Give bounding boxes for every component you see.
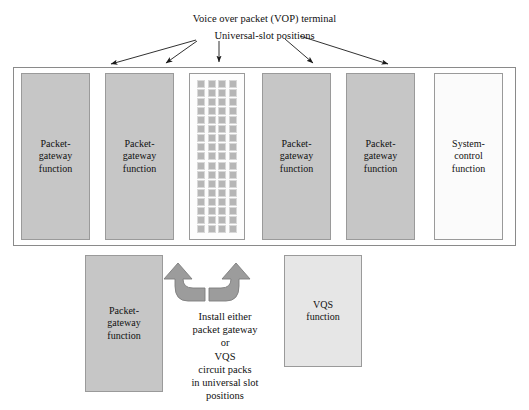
slot-packet-gateway-1[interactable]: Packet- gateway function bbox=[21, 73, 90, 240]
universal-slot-cell[interactable] bbox=[197, 189, 205, 197]
pointer-arrow-2 bbox=[166, 41, 197, 63]
universal-slot-cell[interactable] bbox=[218, 198, 226, 206]
universal-slot-cell[interactable] bbox=[218, 80, 226, 88]
universal-slot-cell[interactable] bbox=[197, 116, 205, 124]
universal-slot-cell[interactable] bbox=[208, 207, 216, 215]
universal-slot-cell[interactable] bbox=[229, 198, 237, 206]
universal-slot-position-bay[interactable] bbox=[189, 73, 245, 240]
universal-slot-cell[interactable] bbox=[229, 162, 237, 170]
universal-slot-cell[interactable] bbox=[229, 98, 237, 106]
universal-slot-cell[interactable] bbox=[197, 125, 205, 133]
vqs-circuit-pack[interactable]: VQS function bbox=[284, 255, 362, 367]
universal-slot-cell[interactable] bbox=[229, 80, 237, 88]
universal-slot-cell[interactable] bbox=[197, 225, 205, 233]
universal-slot-cell[interactable] bbox=[218, 125, 226, 133]
universal-slot-grid bbox=[190, 74, 244, 239]
universal-slot-cell[interactable] bbox=[197, 134, 205, 142]
universal-slot-cell[interactable] bbox=[197, 216, 205, 224]
universal-slot-cell[interactable] bbox=[218, 171, 226, 179]
slot-label: Packet- gateway function bbox=[280, 138, 313, 176]
universal-slot-cell[interactable] bbox=[218, 189, 226, 197]
universal-slot-cell[interactable] bbox=[218, 143, 226, 151]
slot-label: Packet- gateway function bbox=[39, 138, 72, 176]
install-instruction-text: Install either packet gateway or VQS cir… bbox=[168, 310, 282, 402]
universal-slot-positions-label: Universal-slot positions bbox=[0, 29, 529, 42]
universal-slot-cell[interactable] bbox=[197, 89, 205, 97]
slot-label: Packet- gateway function bbox=[364, 138, 397, 176]
instruction-line-5: circuit packs bbox=[168, 363, 282, 376]
universal-slot-cell[interactable] bbox=[197, 80, 205, 88]
universal-slot-cell[interactable] bbox=[197, 207, 205, 215]
slot-packet-gateway-3[interactable]: Packet- gateway function bbox=[262, 73, 331, 240]
packet-gateway-circuit-pack-label: Packet- gateway function bbox=[107, 305, 140, 343]
universal-slot-cell[interactable] bbox=[208, 180, 216, 188]
figure-canvas: Voice over packet (VOP) terminal Univers… bbox=[0, 0, 529, 410]
universal-slot-cell[interactable] bbox=[229, 225, 237, 233]
universal-slot-cell[interactable] bbox=[197, 162, 205, 170]
slot-packet-gateway-4[interactable]: Packet- gateway function bbox=[346, 73, 415, 240]
universal-slot-cell[interactable] bbox=[229, 89, 237, 97]
install-arrow-left-icon bbox=[164, 263, 205, 301]
slot-system-control[interactable]: System- control function bbox=[434, 73, 503, 240]
universal-slot-cell[interactable] bbox=[229, 152, 237, 160]
slot-label: Packet- gateway function bbox=[123, 138, 156, 176]
instruction-line-2: packet gateway bbox=[168, 323, 282, 336]
universal-slot-cell[interactable] bbox=[197, 198, 205, 206]
universal-slot-cell[interactable] bbox=[218, 152, 226, 160]
universal-slot-cell[interactable] bbox=[208, 171, 216, 179]
universal-slot-cell[interactable] bbox=[229, 207, 237, 215]
universal-slot-cell[interactable] bbox=[208, 125, 216, 133]
instruction-line-3: or bbox=[168, 336, 282, 349]
universal-slot-cell[interactable] bbox=[218, 162, 226, 170]
packet-gateway-circuit-pack[interactable]: Packet- gateway function bbox=[85, 255, 163, 392]
universal-slot-cell[interactable] bbox=[229, 189, 237, 197]
figure-title: Voice over packet (VOP) terminal bbox=[0, 12, 529, 25]
universal-slot-cell[interactable] bbox=[208, 225, 216, 233]
instruction-line-4: VQS bbox=[168, 350, 282, 363]
universal-slot-cell[interactable] bbox=[208, 216, 216, 224]
universal-slot-cell[interactable] bbox=[218, 216, 226, 224]
pointer-arrow-4 bbox=[285, 39, 313, 63]
universal-slot-cell[interactable] bbox=[208, 107, 216, 115]
universal-slot-cell[interactable] bbox=[229, 171, 237, 179]
universal-slot-cell[interactable] bbox=[208, 80, 216, 88]
universal-slot-cell[interactable] bbox=[208, 198, 216, 206]
universal-slot-cell[interactable] bbox=[229, 125, 237, 133]
slot-packet-gateway-2[interactable]: Packet- gateway function bbox=[105, 73, 174, 240]
universal-slot-cell[interactable] bbox=[229, 107, 237, 115]
universal-slot-cell[interactable] bbox=[197, 143, 205, 151]
universal-slot-cell[interactable] bbox=[208, 89, 216, 97]
universal-slot-cell[interactable] bbox=[218, 180, 226, 188]
universal-slot-cell[interactable] bbox=[218, 116, 226, 124]
universal-slot-cell[interactable] bbox=[208, 189, 216, 197]
instruction-line-7: positions bbox=[168, 389, 282, 402]
universal-slot-cell[interactable] bbox=[197, 180, 205, 188]
universal-slot-cell[interactable] bbox=[229, 180, 237, 188]
universal-slot-cell[interactable] bbox=[218, 89, 226, 97]
universal-slot-cell[interactable] bbox=[197, 152, 205, 160]
slot-label: System- control function bbox=[452, 138, 485, 176]
universal-slot-cell[interactable] bbox=[208, 98, 216, 106]
instruction-line-1: Install either bbox=[168, 310, 282, 323]
universal-slot-cell[interactable] bbox=[218, 98, 226, 106]
universal-slot-cell[interactable] bbox=[208, 152, 216, 160]
universal-slot-cell[interactable] bbox=[197, 98, 205, 106]
universal-slot-cell[interactable] bbox=[218, 134, 226, 142]
universal-slot-cell[interactable] bbox=[197, 171, 205, 179]
pointer-arrow-1 bbox=[111, 40, 196, 64]
universal-slot-cell[interactable] bbox=[229, 134, 237, 142]
install-arrow-right-icon bbox=[209, 263, 250, 301]
universal-slot-cell[interactable] bbox=[208, 134, 216, 142]
universal-slot-cell[interactable] bbox=[218, 225, 226, 233]
universal-slot-cell[interactable] bbox=[229, 143, 237, 151]
universal-slot-cell[interactable] bbox=[229, 116, 237, 124]
universal-slot-cell[interactable] bbox=[208, 143, 216, 151]
universal-slot-cell[interactable] bbox=[218, 107, 226, 115]
vqs-circuit-pack-label: VQS function bbox=[306, 299, 339, 324]
universal-slot-cell[interactable] bbox=[218, 207, 226, 215]
universal-slot-cell[interactable] bbox=[229, 216, 237, 224]
instruction-line-6: in universal slot bbox=[168, 376, 282, 389]
universal-slot-cell[interactable] bbox=[197, 107, 205, 115]
universal-slot-cell[interactable] bbox=[208, 116, 216, 124]
universal-slot-cell[interactable] bbox=[208, 162, 216, 170]
